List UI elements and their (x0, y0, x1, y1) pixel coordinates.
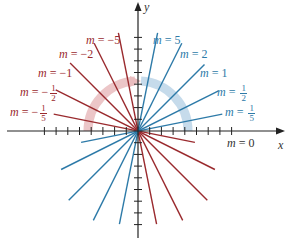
label-m-zero: m = 0 (227, 137, 254, 149)
label-m-neg1: m = −1 (38, 67, 72, 79)
y-axis-arrow-icon (135, 2, 142, 11)
label-m-pos1: m = 1 (200, 67, 227, 79)
label-m-neg-fifth: m = −15 (10, 104, 47, 123)
x-axis-label: x (278, 139, 283, 151)
x-axis-arrow-icon (276, 128, 285, 135)
y-axis-label: y (144, 1, 149, 13)
negative-arc-arrowhead (130, 76, 141, 87)
label-m-pos2: m = 2 (180, 48, 207, 60)
label-m-pos-half: m = 12 (217, 84, 247, 103)
label-m-neg-half: m = −12 (20, 84, 57, 103)
label-m-pos5: m = 5 (153, 34, 180, 46)
label-m-pos-fifth: m = 15 (225, 104, 255, 123)
label-m-neg2: m = −2 (59, 48, 93, 60)
label-m-neg5: m = −5 (86, 34, 120, 46)
